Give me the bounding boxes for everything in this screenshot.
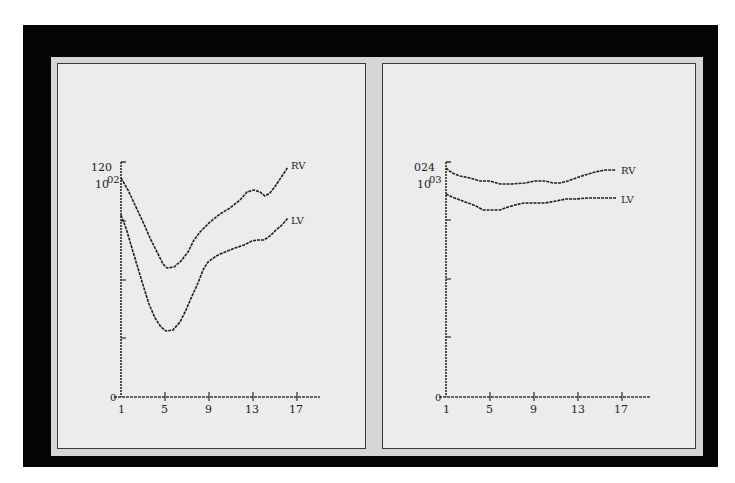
right-y-top-label: 024 (414, 161, 435, 174)
left-lv-legend: LV (291, 215, 304, 226)
right-lv-legend: LV (621, 194, 634, 205)
right-x-tick-5: 5 (486, 403, 493, 416)
right-lv-line (446, 194, 616, 210)
charts-canvas: 120 10 02 0 1 5 9 13 17 RV LV 024 10 03 (0, 0, 735, 483)
right-x-tick-9: 9 (530, 403, 537, 416)
left-x-tick-17: 17 (289, 403, 303, 416)
left-x-tick-1: 1 (118, 403, 125, 416)
left-x-tick-13: 13 (245, 403, 259, 416)
left-lv-line (121, 215, 288, 331)
left-chart: 120 10 02 0 1 5 9 13 17 RV LV (91, 160, 320, 416)
right-rv-line (446, 168, 616, 184)
left-x-tick-5: 5 (161, 403, 168, 416)
right-y-mult-exp: 03 (429, 174, 442, 185)
right-x-tick-13: 13 (571, 403, 585, 416)
right-rv-legend: RV (621, 165, 636, 176)
left-y-mult-exp: 02 (107, 174, 120, 185)
left-y-top-label: 120 (91, 161, 112, 174)
left-rv-line (121, 167, 288, 268)
left-x-tick-9: 9 (205, 403, 212, 416)
left-rv-legend: RV (291, 160, 306, 171)
right-y-zero-label: 0 (435, 392, 441, 403)
left-y-zero-label: 0 (110, 392, 116, 403)
right-chart: 024 10 03 0 1 5 9 13 17 RV LV (414, 161, 650, 416)
right-x-tick-17: 17 (614, 403, 628, 416)
right-x-tick-1: 1 (443, 403, 450, 416)
